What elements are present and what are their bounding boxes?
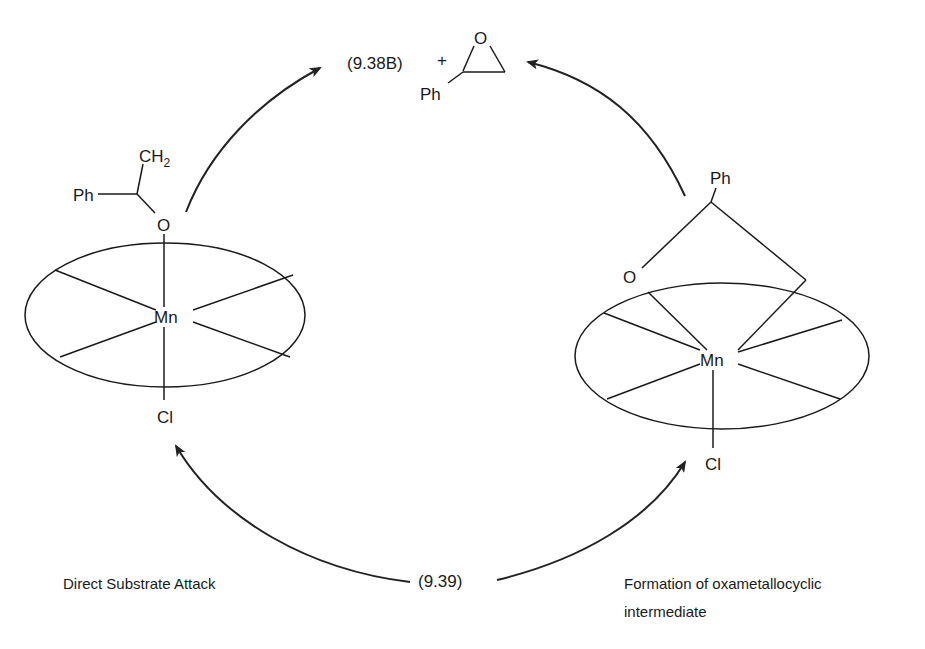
arrow-right-to-product (528, 62, 685, 196)
right-chloride-label: Cl (705, 455, 721, 474)
epoxide-structure: O Ph (420, 29, 505, 104)
right-manganese-label: Mn (700, 351, 724, 370)
pathway-label-direct-attack: Direct Substrate Attack (63, 575, 216, 592)
arrow-start-to-right (497, 462, 685, 580)
arrow-left-to-product (186, 68, 320, 212)
plus-sign: + (437, 51, 447, 70)
arrow-start-to-left (176, 446, 410, 582)
left-oxygen-label: O (157, 216, 170, 235)
left-manganese-label: Mn (154, 308, 178, 327)
left-phenyl-label: Ph (73, 186, 94, 205)
pathway-label-oxametallocycle-2: intermediate (624, 603, 707, 620)
epoxide-phenyl: Ph (420, 85, 441, 104)
right-phenyl-label: Ph (710, 169, 731, 188)
compound-label-9-38b: (9.38B) (347, 54, 403, 73)
left-chloride-label: Cl (157, 408, 173, 427)
product-group: (9.38B) + O Ph (347, 29, 505, 104)
pathway-label-oxametallocycle-1: Formation of oxametallocyclic (624, 575, 822, 592)
epoxide-oxygen: O (474, 29, 487, 48)
start-compound-9-39: (9.39) (418, 572, 462, 591)
right-oxygen-label: O (623, 268, 636, 287)
catalytic-cycle-diagram: (9.38B) + O Ph CH2 Ph O Mn Cl (0, 0, 925, 649)
left-mn-complex: CH2 Ph O Mn Cl (25, 147, 305, 427)
right-mn-complex: Ph O Mn Cl (575, 169, 869, 474)
left-ch2-label: CH2 (139, 147, 171, 170)
